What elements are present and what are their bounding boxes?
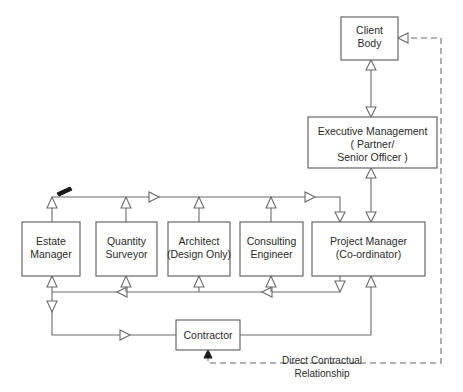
diagram-canvas: Client Body Executive Management ( Partn… [0, 0, 463, 392]
arrowhead-right-contractor [120, 330, 130, 340]
arrowhead-solid-contractor [204, 350, 212, 358]
node-client-body-line-1: Body [358, 37, 383, 49]
arrowhead-up-pm-from-contractor [366, 276, 376, 287]
legend-line-1: Relationship [294, 368, 349, 379]
node-estate-manager[interactable]: Estate Manager [22, 222, 80, 276]
arrowhead-down-pm-bus [335, 212, 345, 222]
node-client-body[interactable]: Client Body [341, 17, 398, 60]
node-architect-line-0: Architect [179, 235, 220, 247]
node-executive-management-line-1: ( Partner/ [351, 138, 395, 150]
arrowhead-up-client [366, 60, 376, 70]
node-estate-manager-line-1: Manager [30, 248, 72, 260]
arrowhead-up-consulting-bottom [266, 276, 276, 287]
node-executive-management[interactable]: Executive Management ( Partner/ Senior O… [308, 117, 437, 168]
node-quantity-surveyor-line-0: Quantity [107, 235, 147, 247]
arrowhead-down-pm-bottom [335, 281, 345, 292]
arrowhead-up-estate-bottom [47, 276, 57, 287]
arrowhead-up-architect-bottom [194, 276, 204, 287]
node-project-manager-line-0: Project Manager [330, 235, 408, 247]
node-consulting-engineer-line-1: Engineer [250, 248, 293, 260]
legend-direct-contractual-relationship: Direct Contractual Relationship [282, 355, 362, 379]
arrowhead-up-consulting-top [266, 197, 276, 208]
arrowhead-up-architect-top [194, 197, 204, 208]
node-contractor[interactable]: Contractor [176, 320, 240, 350]
arrowhead-up-quantity-top [121, 197, 131, 208]
node-architect-line-1: (Design Only) [167, 248, 231, 260]
node-project-manager-line-1: (Co-ordinator) [336, 248, 401, 260]
node-executive-management-line-0: Executive Management [318, 125, 428, 137]
arrowhead-down-pm [366, 212, 376, 222]
connector-contractor-pm [240, 279, 371, 335]
arrowhead-left-client-body [398, 33, 408, 43]
arrowhead-down-exec [366, 107, 376, 117]
node-consulting-engineer-line-0: Consulting [247, 235, 297, 247]
connector-estate-contractor [52, 292, 176, 335]
org-chart-diagram: Client Body Executive Management ( Partn… [0, 0, 463, 392]
node-contractor-line-0: Contractor [183, 329, 233, 341]
arrowhead-right-bus-top-1 [149, 192, 159, 202]
arrowhead-right-bus-top-2 [305, 192, 315, 202]
arrowhead-down-estate-branch [47, 301, 57, 312]
legend-line-0: Direct Contractual [282, 355, 362, 366]
node-architect[interactable]: Architect (Design Only) [167, 222, 231, 276]
node-project-manager[interactable]: Project Manager (Co-ordinator) [312, 222, 425, 276]
connector-direct-contractual-dashed [208, 38, 441, 363]
node-quantity-surveyor-line-1: Surveyor [105, 248, 148, 260]
connectors [47, 33, 441, 363]
arrowhead-up-quantity-bottom [121, 276, 131, 287]
pen-tick-mark [57, 187, 72, 196]
node-client-body-line-0: Client [356, 24, 383, 36]
node-estate-manager-line-0: Estate [36, 235, 66, 247]
node-executive-management-line-2: Senior Officer ) [337, 151, 407, 163]
node-quantity-surveyor[interactable]: Quantity Surveyor [96, 222, 157, 276]
arrowhead-up-exec [366, 168, 376, 178]
node-consulting-engineer[interactable]: Consulting Engineer [240, 222, 303, 276]
arrowhead-up-estate-top [47, 197, 57, 208]
